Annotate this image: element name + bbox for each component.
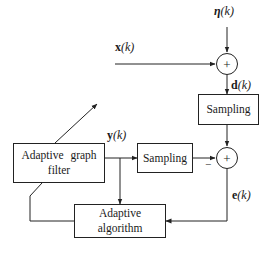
plus-symbol: +	[223, 58, 230, 71]
block-label: Sampling	[206, 102, 250, 117]
sum-node-top: +	[216, 53, 238, 75]
block-label: Sampling	[143, 151, 187, 166]
e-arrow	[166, 169, 227, 221]
sampling-block-top: Sampling	[198, 94, 259, 125]
plus-symbol: +	[223, 152, 230, 165]
signal-arg: (k)	[113, 128, 126, 142]
signal-symbol: d	[231, 78, 238, 92]
adaptive-algorithm-block: Adaptive algorithm	[74, 204, 166, 238]
signal-label-y: y(k)	[107, 128, 126, 143]
signal-arg: (k)	[237, 188, 250, 202]
adaptation-line	[30, 183, 74, 221]
signal-label-e: e(k)	[232, 188, 251, 203]
adaptive-graph-filter-block: Adaptive graph filter	[13, 143, 105, 183]
block-label-line1: Adaptive	[99, 206, 141, 221]
signal-symbol: η	[214, 4, 221, 18]
block-label-line2: filter	[48, 163, 70, 178]
adaptation-arrow	[55, 104, 97, 143]
signal-label-x: x(k)	[115, 40, 134, 55]
block-label-line2: algorithm	[98, 221, 143, 236]
signal-label-eta: η(k)	[214, 4, 234, 19]
block-label-line1: Adaptive graph	[21, 148, 96, 163]
signal-label-d: d(k)	[231, 78, 251, 93]
sum-node-bottom: +	[216, 147, 238, 169]
signal-arg: (k)	[221, 4, 234, 18]
signal-arg: (k)	[121, 40, 134, 54]
signal-arg: (k)	[238, 78, 251, 92]
minus-sign: −	[205, 158, 211, 170]
sampling-block-middle: Sampling	[137, 143, 193, 173]
